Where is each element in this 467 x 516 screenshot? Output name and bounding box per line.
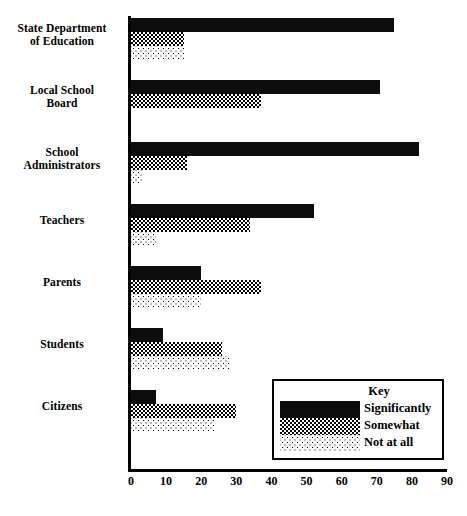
category-label-line: Parents — [0, 276, 124, 290]
chart-container: State Departmentof EducationLocal School… — [0, 0, 467, 516]
bar-somewhat — [131, 156, 187, 170]
bar-notatall — [131, 170, 142, 184]
x-axis-line — [128, 469, 447, 472]
category-label: Local SchoolBoard — [0, 84, 124, 111]
bar-significantly — [131, 266, 201, 280]
x-tick-label: 90 — [432, 474, 462, 489]
x-tick-label: 10 — [151, 474, 181, 489]
legend-box: Key Significantly Somewhat Not at all — [272, 379, 444, 460]
bar-notatall — [131, 46, 184, 60]
x-tick-label: 80 — [397, 474, 427, 489]
bar-somewhat — [131, 404, 236, 418]
x-tick-label: 20 — [186, 474, 216, 489]
category-label: Teachers — [0, 214, 124, 228]
bar-significantly — [131, 80, 380, 94]
legend-title: Key — [314, 384, 444, 399]
category-label-line: Administrators — [0, 159, 124, 173]
category-label-line: of Education — [0, 35, 124, 49]
bar-notatall — [131, 294, 201, 308]
legend-label-significantly: Significantly — [364, 401, 444, 416]
category-label: Parents — [0, 276, 124, 290]
category-label: SchoolAdministrators — [0, 146, 124, 173]
bar-notatall — [131, 232, 156, 246]
category-label-line: School — [0, 146, 124, 160]
x-tick-label: 40 — [256, 474, 286, 489]
bar-somewhat — [131, 218, 250, 232]
legend-swatch-somewhat — [280, 418, 360, 435]
bar-significantly — [131, 142, 419, 156]
bar-significantly — [131, 328, 163, 342]
bar-somewhat — [131, 280, 261, 294]
x-tick-label: 50 — [292, 474, 322, 489]
bar-notatall — [131, 356, 229, 370]
legend-swatch-significantly — [280, 401, 360, 418]
bar-somewhat — [131, 94, 261, 108]
category-label-line: Citizens — [0, 400, 124, 414]
category-label-line: Students — [0, 338, 124, 352]
legend-label-somewhat: Somewhat — [364, 418, 444, 433]
x-tick-label: 30 — [221, 474, 251, 489]
legend-label-notatall: Not at all — [364, 435, 444, 450]
bar-somewhat — [131, 32, 184, 46]
category-label: Citizens — [0, 400, 124, 414]
category-label: State Departmentof Education — [0, 22, 124, 49]
bar-significantly — [131, 204, 314, 218]
x-tick-label: 0 — [116, 474, 146, 489]
category-label: Students — [0, 338, 124, 352]
category-label-line: Teachers — [0, 214, 124, 228]
legend-swatch-notatall — [280, 435, 360, 452]
x-tick-label: 70 — [362, 474, 392, 489]
bar-significantly — [131, 390, 156, 404]
x-tick-label: 60 — [327, 474, 357, 489]
category-label-line: Board — [0, 97, 124, 111]
category-label-line: State Department — [0, 22, 124, 36]
bar-notatall — [131, 418, 215, 432]
bar-somewhat — [131, 342, 222, 356]
category-label-line: Local School — [0, 84, 124, 98]
bar-significantly — [131, 18, 394, 32]
